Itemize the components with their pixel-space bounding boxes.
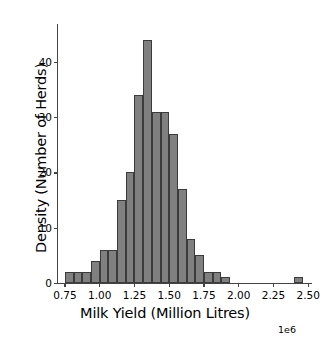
y-tick-label: 10 xyxy=(39,222,52,234)
y-axis-label: Density (Number of Herds) xyxy=(33,33,49,283)
histogram-bar xyxy=(74,272,83,283)
x-tick-mark xyxy=(99,283,100,287)
x-tick-mark xyxy=(308,283,309,287)
y-tick-label: 20 xyxy=(39,166,52,178)
y-tick-mark xyxy=(54,62,58,63)
histogram-bar xyxy=(134,95,143,283)
x-tick-label: 1.50 xyxy=(158,289,181,301)
x-tick-label: 1.25 xyxy=(123,289,146,301)
y-tick-mark xyxy=(54,283,58,284)
x-tick-label: 2.25 xyxy=(262,289,285,301)
histogram-bar xyxy=(100,250,109,283)
histogram-bar xyxy=(204,272,213,283)
plot-area: 010203040 0.751.001.251.501.752.002.252.… xyxy=(58,26,311,283)
histogram-bar xyxy=(108,250,117,283)
x-tick-label: 1.00 xyxy=(88,289,111,301)
histogram-bar xyxy=(178,189,187,283)
histogram-figure: Density (Number of Herds) 010203040 0.75… xyxy=(0,0,328,341)
y-tick-label: 30 xyxy=(39,111,52,123)
histogram-bar xyxy=(187,239,196,283)
y-tick-label: 40 xyxy=(39,56,52,68)
y-tick-mark xyxy=(54,172,58,173)
histogram-bar xyxy=(65,272,74,283)
histogram-bar xyxy=(152,112,161,283)
histogram-bar xyxy=(294,277,302,283)
histogram-bar xyxy=(91,261,100,283)
x-tick-label: 1.75 xyxy=(192,289,215,301)
histogram-bar xyxy=(161,112,170,283)
histogram-bar xyxy=(126,172,135,283)
histogram-bar xyxy=(82,272,91,283)
histogram-bar xyxy=(213,272,222,283)
histogram-bar xyxy=(117,200,126,283)
x-tick-mark xyxy=(203,283,204,287)
x-tick-mark xyxy=(64,283,65,287)
y-tick-mark xyxy=(54,228,58,229)
histogram-bar xyxy=(169,134,178,283)
x-tick-label: 2.50 xyxy=(297,289,320,301)
x-tick-mark xyxy=(238,283,239,287)
x-axis-label: Milk Yield (Million Litres) xyxy=(20,305,310,321)
histogram-bar xyxy=(221,277,230,283)
y-tick-label: 0 xyxy=(45,277,52,289)
x-tick-mark xyxy=(169,283,170,287)
y-tick-mark xyxy=(54,117,58,118)
x-tick-mark xyxy=(134,283,135,287)
histogram-bar xyxy=(143,40,152,283)
x-tick-label: 2.00 xyxy=(227,289,250,301)
x-tick-mark xyxy=(273,283,274,287)
histogram-bar xyxy=(195,255,204,283)
x-axis-exponent-label: 1e6 xyxy=(278,324,296,335)
x-tick-label: 0.75 xyxy=(53,289,76,301)
